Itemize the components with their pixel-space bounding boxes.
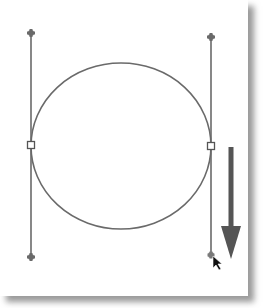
left-bottom-handle-point[interactable] <box>27 253 35 261</box>
drag-down-arrow-icon <box>221 147 241 259</box>
right-anchor-point[interactable] <box>208 143 215 150</box>
left-top-handle-point[interactable] <box>27 29 35 37</box>
bezier-diagram <box>0 0 267 308</box>
ellipse-path[interactable] <box>31 63 211 229</box>
left-anchor-point[interactable] <box>28 142 35 149</box>
pointer-arrow-icon <box>213 256 222 270</box>
right-top-handle-point[interactable] <box>207 33 215 41</box>
